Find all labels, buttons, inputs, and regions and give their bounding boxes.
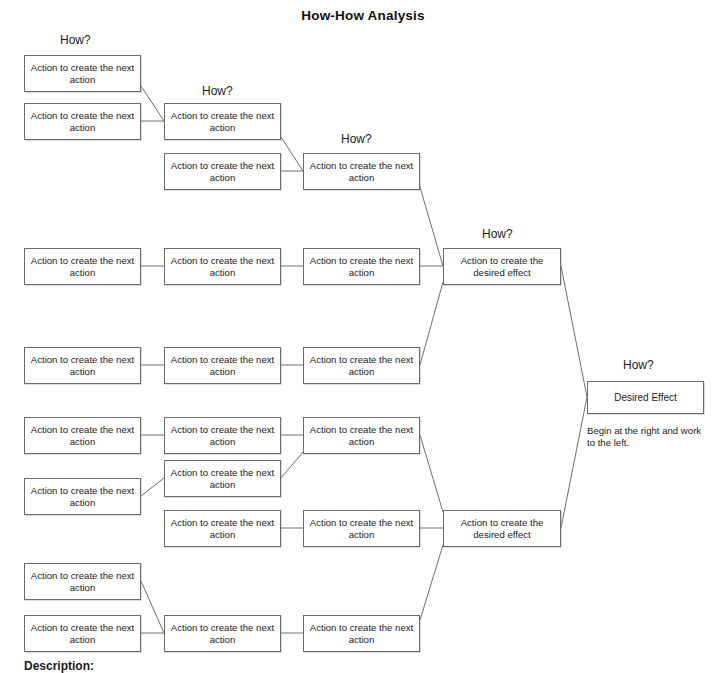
how-label: How? — [202, 84, 233, 98]
action-box-label: Action to create the next action — [168, 517, 277, 541]
action-box-label: Action to create the next action — [168, 160, 277, 184]
action-box[interactable]: Action to create the next action — [24, 55, 141, 92]
action-box[interactable]: Action to create the next action — [24, 417, 141, 454]
action-box[interactable]: Action to create the next action — [164, 510, 281, 547]
connector-line — [281, 137, 303, 171]
connector-line — [420, 187, 443, 266]
action-box-label: Action to create the next action — [307, 517, 416, 541]
desired-effect-box[interactable]: Desired Effect — [587, 381, 704, 414]
action-box-label: Action to create the next action — [168, 255, 277, 279]
action-box[interactable]: Action to create the next action — [164, 347, 281, 384]
action-box-label: Action to create the next action — [168, 424, 277, 448]
action-box-label: Action to create the next action — [307, 424, 416, 448]
connector-line — [141, 581, 164, 633]
how-label: How? — [623, 358, 654, 372]
action-box[interactable]: Action to create the next action — [303, 615, 420, 652]
action-box[interactable]: Action to create the next action — [24, 103, 141, 140]
connector-line — [420, 545, 443, 620]
action-box[interactable]: Action to create the next action — [303, 510, 420, 547]
how-label: How? — [341, 132, 372, 146]
connector-line — [561, 397, 587, 528]
connector-line — [561, 266, 587, 397]
how-label: How? — [482, 227, 513, 241]
action-box[interactable]: Action to create the next action — [164, 153, 281, 190]
action-box[interactable]: Action to create the next action — [24, 347, 141, 384]
action-box[interactable]: Action to create the next action — [24, 563, 141, 600]
action-box-label: Action to create the next action — [307, 622, 416, 646]
instruction-note: Begin at the right and work to the left. — [587, 425, 707, 449]
action-box[interactable]: Action to create the desired effect — [443, 248, 561, 285]
action-box[interactable]: Action to create the next action — [303, 417, 420, 454]
action-box[interactable]: Action to create the next action — [164, 103, 281, 140]
connector-line — [420, 435, 443, 512]
action-box-label: Action to create the next action — [28, 110, 137, 134]
action-box-label: Action to create the next action — [28, 485, 137, 509]
action-box[interactable]: Action to create the next action — [303, 347, 420, 384]
action-box[interactable]: Action to create the next action — [24, 478, 141, 515]
connector-line — [141, 86, 164, 121]
action-box[interactable]: Action to create the next action — [164, 417, 281, 454]
action-box-label: Action to create the next action — [28, 354, 137, 378]
action-box-label: Action to create the next action — [168, 622, 277, 646]
action-box[interactable]: Action to create the next action — [164, 248, 281, 285]
how-label: How? — [60, 33, 91, 47]
action-box-label: Action to create the next action — [28, 622, 137, 646]
action-box-label: Action to create the desired effect — [447, 517, 557, 541]
action-box-label: Action to create the next action — [168, 354, 277, 378]
action-box[interactable]: Action to create the next action — [164, 460, 281, 497]
action-box-label: Action to create the next action — [307, 160, 416, 184]
action-box-label: Action to create the next action — [28, 570, 137, 594]
action-box-label: Action to create the desired effect — [447, 255, 557, 279]
action-box-label: Action to create the next action — [28, 424, 137, 448]
description-heading: Description: — [24, 659, 94, 673]
action-box[interactable]: Action to create the next action — [24, 615, 141, 652]
action-box-label: Action to create the next action — [307, 255, 416, 279]
connector-line — [281, 452, 303, 478]
action-box[interactable]: Action to create the next action — [24, 248, 141, 285]
action-box-label: Action to create the next action — [28, 255, 137, 279]
action-box-label: Action to create the next action — [168, 467, 277, 491]
action-box-label: Action to create the next action — [307, 354, 416, 378]
action-box[interactable]: Action to create the next action — [303, 248, 420, 285]
action-box[interactable]: Action to create the next action — [303, 153, 420, 190]
connector-line — [420, 282, 443, 365]
action-box-label: Action to create the next action — [168, 110, 277, 134]
action-box-label: Desired Effect — [614, 392, 677, 404]
action-box[interactable]: Action to create the desired effect — [443, 510, 561, 547]
action-box[interactable]: Action to create the next action — [164, 615, 281, 652]
action-box-label: Action to create the next action — [28, 62, 137, 86]
connector-line — [141, 478, 164, 496]
